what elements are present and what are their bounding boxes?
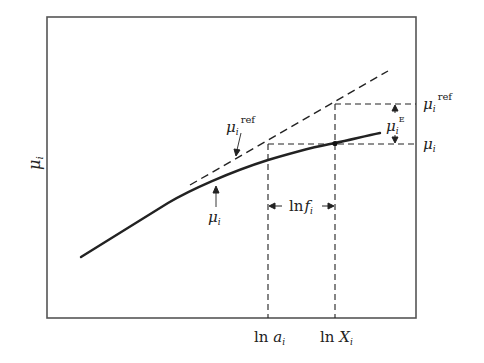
svg-text:μi: μi xyxy=(25,156,45,170)
reference-potential-line xyxy=(190,71,388,185)
plot-frame xyxy=(47,17,416,318)
mu-excess-label: μiE xyxy=(386,115,405,136)
curve-pointer-arrow xyxy=(213,186,219,207)
mu-right-label: μi xyxy=(423,135,436,154)
x-tick-ln-x: ln Xi xyxy=(320,328,353,347)
mu-ref-right-label: μiref xyxy=(423,91,453,114)
x-tick-ln-a: ln ai xyxy=(254,328,285,347)
mu-left-label: μi xyxy=(208,208,221,227)
chemical-potential-diagram: μi μiref μi lnfi μiE μiref μi ln ai xyxy=(0,0,484,363)
ln-f-label: lnfi xyxy=(289,197,313,216)
y-axis-label: μi xyxy=(25,156,45,170)
state-point-marker xyxy=(332,141,337,146)
